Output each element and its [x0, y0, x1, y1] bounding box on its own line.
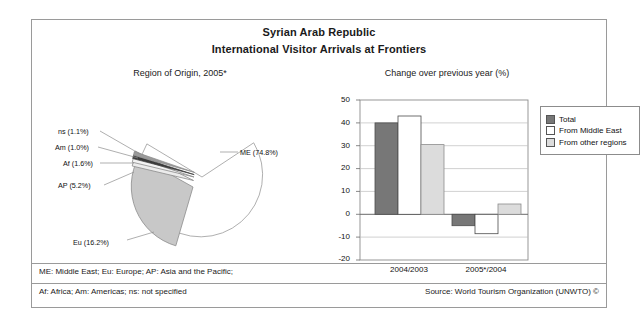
source-attribution: Source: World Tourism Organization (UNWT… [425, 287, 599, 296]
y-tick-neg10: -10 [328, 232, 350, 241]
pie-label-ns: ns (1.1%) [58, 127, 89, 136]
page-subtitle: International Visitor Arrivals at Fronti… [32, 43, 606, 55]
bar-other-regions-2004 [421, 145, 444, 215]
legend-label-total: Total [559, 115, 576, 124]
bar-chart: 50 40 30 20 10 0 -10 -20 2004/2003 2005*… [328, 82, 600, 282]
legend-label-middle-east: From Middle East [559, 126, 622, 135]
bar-middle-east-2005 [475, 214, 498, 233]
y-tick-10: 10 [328, 186, 350, 195]
x-tick-2005-2004: 2005*/2004 [446, 265, 526, 274]
legend-item-other-regions: From other regions [546, 138, 634, 147]
pie-chart: ns (1.1%) Am (1.0%) Af (1.6%) AP (5.2%) … [42, 82, 328, 272]
bar-middle-east-2004 [398, 116, 421, 214]
y-tick-30: 30 [328, 141, 350, 150]
bar-other-regions-2005 [498, 204, 521, 214]
footnote-line1: ME: Middle East; Eu: Europe; AP: Asia an… [39, 267, 233, 276]
legend-label-other-regions: From other regions [559, 138, 627, 147]
y-tick-50: 50 [328, 95, 350, 104]
pie-label-af: Af (1.6%) [63, 159, 93, 168]
pie-chart-title: Region of Origin, 2005* [60, 68, 300, 78]
bar-total-2004 [375, 123, 398, 214]
title-block: Syrian Arab Republic International Visit… [32, 26, 606, 55]
legend-swatch-total [546, 115, 555, 124]
legend-swatch-middle-east [546, 126, 555, 135]
page-title: Syrian Arab Republic [32, 26, 606, 38]
pie-label-eu: Eu (16.2%) [73, 238, 109, 247]
bar-total-2005 [452, 214, 475, 225]
x-tick-2004-2003: 2004/2003 [369, 265, 449, 274]
y-tick-20: 20 [328, 163, 350, 172]
chart-legend: Total From Middle East From other region… [540, 106, 640, 155]
footer-divider-bottom [32, 283, 606, 284]
y-tick-neg20: -20 [328, 254, 350, 263]
footer-divider-top [32, 263, 606, 264]
pie-label-am: Am (1.0%) [55, 143, 89, 152]
figure-panel: Syrian Arab Republic International Visit… [31, 19, 607, 308]
pie-label-ap: AP (5.2%) [58, 181, 91, 190]
y-tick-40: 40 [328, 118, 350, 127]
y-tick-marks [356, 100, 360, 260]
bar-chart-title: Change over previous year (%) [332, 68, 562, 78]
legend-item-total: Total [546, 115, 634, 124]
legend-swatch-other-regions [546, 138, 555, 147]
pie-label-me: ME (74.8%) [240, 148, 278, 157]
legend-item-middle-east: From Middle East [546, 126, 634, 135]
y-tick-0: 0 [328, 209, 350, 218]
footnote-line2: Af: Africa; Am: Americas; ns: not specif… [39, 287, 187, 296]
